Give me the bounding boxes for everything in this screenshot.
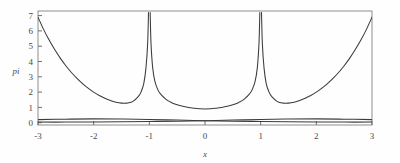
y-tick-label: 5: [29, 41, 34, 51]
x-tick-label: 1: [258, 131, 263, 141]
y-tick-label: 7: [29, 11, 34, 21]
plot-canvas: -3-2-10123 01234567 x pi: [0, 0, 400, 163]
x-tick-label: -1: [146, 131, 154, 141]
x-tick-label: -2: [90, 131, 98, 141]
figure-background: [0, 0, 400, 163]
y-tick-label: 1: [29, 103, 34, 113]
x-axis-title: x: [202, 149, 207, 159]
chart-figure: -3-2-10123 01234567 x pi: [0, 0, 400, 163]
y-tick-label: 3: [29, 72, 34, 82]
x-tick-label: 2: [314, 131, 319, 141]
y-axis-title: pi: [11, 66, 20, 76]
x-tick-label: -3: [34, 131, 42, 141]
x-tick-label: 3: [370, 131, 375, 141]
y-tick-label: 0: [29, 118, 34, 128]
y-tick-label: 6: [29, 26, 34, 36]
x-tick-label: 0: [203, 131, 208, 141]
y-tick-label: 4: [29, 57, 34, 67]
y-tick-label: 2: [29, 87, 34, 97]
